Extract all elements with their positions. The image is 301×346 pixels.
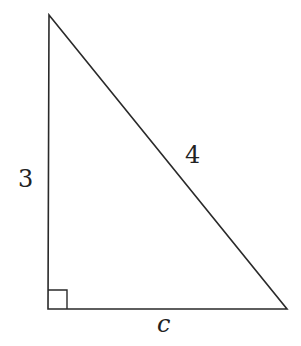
vertical-leg-label: 3 — [18, 167, 33, 191]
horizontal-leg-label: c — [157, 312, 170, 336]
hypotenuse-label: 4 — [185, 143, 200, 167]
triangle-outline — [48, 15, 287, 309]
triangle-figure — [0, 0, 301, 346]
triangle-diagram: 3 4 c — [0, 0, 301, 346]
right-angle-marker — [48, 290, 67, 309]
